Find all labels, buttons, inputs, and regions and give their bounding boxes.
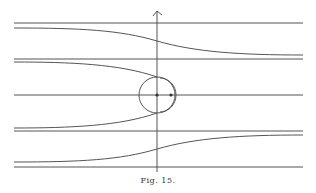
right-dot	[169, 93, 172, 96]
curved-streamline-upper-inner	[14, 62, 157, 77]
curved-streamline-top	[14, 28, 303, 55]
curved-streamline-lower-inner	[14, 113, 157, 128]
figure-caption: Fig. 15.	[0, 176, 316, 185]
curved-streamline-bottom	[14, 135, 303, 162]
streamline-figure	[0, 0, 316, 193]
center-dot	[155, 93, 158, 96]
